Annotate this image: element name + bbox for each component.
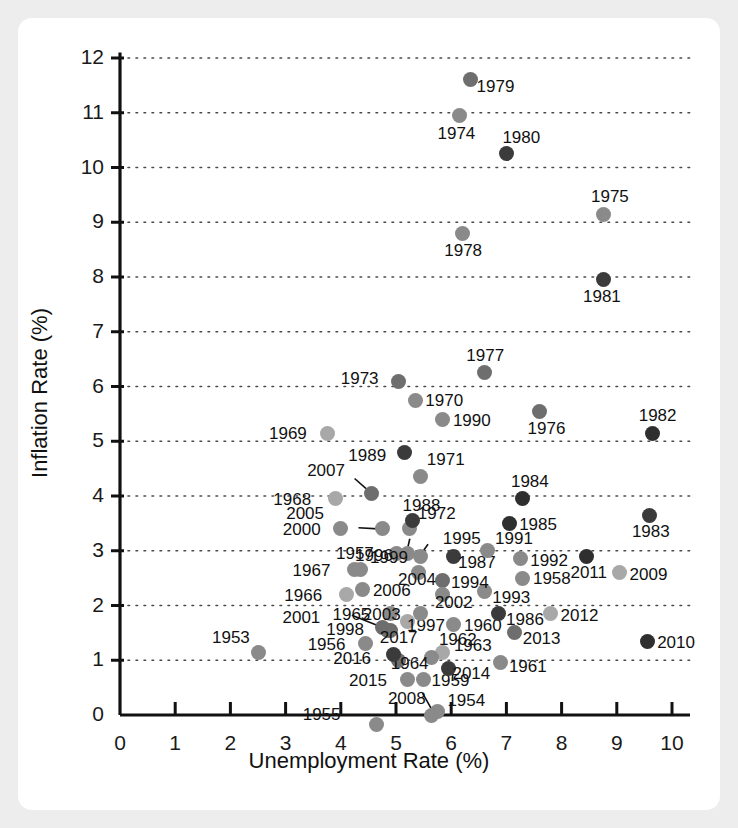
data-point-1983[interactable] [642, 508, 657, 523]
data-point-1999[interactable] [353, 562, 368, 577]
y-tick-label-7: 7 [48, 319, 104, 343]
point-label-1974: 1974 [437, 124, 475, 144]
point-label-1984: 1984 [511, 472, 549, 492]
point-label-1975: 1975 [591, 187, 629, 207]
point-label-2008: 2008 [388, 689, 426, 709]
data-point-1968[interactable] [328, 491, 343, 506]
y-tick-label-3: 3 [48, 538, 104, 562]
data-point-2011[interactable] [579, 549, 594, 564]
data-point-2016[interactable] [386, 647, 401, 662]
point-label-1979: 1979 [477, 77, 515, 97]
point-label-1989: 1989 [348, 446, 386, 466]
x-axis-title: Unemployment Rate (%) [0, 748, 738, 774]
data-point-1991[interactable] [480, 543, 495, 558]
point-label-1982: 1982 [639, 406, 677, 426]
y-tick-label-12: 12 [48, 45, 104, 69]
data-point-1975[interactable] [596, 207, 611, 222]
y-tick-label-8: 8 [48, 264, 104, 288]
data-point-1978[interactable] [455, 226, 470, 241]
y-tick-label-0: 0 [48, 702, 104, 726]
point-label-2001: 2001 [282, 608, 320, 628]
point-label-1954: 1954 [447, 691, 485, 711]
point-label-1988: 1988 [403, 496, 441, 516]
point-label-1961: 1961 [509, 657, 547, 677]
data-point-1953[interactable] [251, 645, 266, 660]
point-label-1969: 1969 [269, 424, 307, 444]
plot-svg-layer [0, 0, 738, 828]
point-label-1978: 1978 [444, 241, 482, 261]
y-tick-label-2: 2 [48, 593, 104, 617]
point-label-1999: 1999 [370, 548, 408, 568]
data-point-1973[interactable] [391, 374, 406, 389]
point-label-1983: 1983 [632, 522, 670, 542]
point-label-2012: 2012 [561, 606, 599, 626]
point-label-2006: 2006 [373, 581, 411, 601]
point-label-2003: 2003 [363, 605, 401, 625]
data-point-1986[interactable] [491, 606, 506, 621]
data-point-2015[interactable] [400, 672, 415, 687]
data-point-1969[interactable] [320, 426, 335, 441]
point-label-2014: 2014 [452, 664, 490, 684]
point-label-1980: 1980 [502, 128, 540, 148]
point-label-2002: 2002 [435, 593, 473, 613]
y-tick-label-4: 4 [48, 483, 104, 507]
point-label-1955: 1955 [303, 705, 341, 725]
point-label-1991: 1991 [495, 529, 533, 549]
point-label-1953: 1953 [212, 628, 250, 648]
point-label-1976: 1976 [528, 419, 566, 439]
point-label-1994: 1994 [451, 573, 489, 593]
point-label-2015: 2015 [349, 671, 387, 691]
y-tick-label-9: 9 [48, 209, 104, 233]
data-point-1970[interactable] [408, 393, 423, 408]
point-label-2016: 2016 [333, 649, 371, 669]
y-tick-label-11: 11 [48, 100, 104, 124]
point-label-2005: 2005 [286, 504, 324, 524]
data-point-2008[interactable] [424, 708, 439, 723]
data-point-2007[interactable] [364, 486, 379, 501]
data-point-2006[interactable] [355, 582, 370, 597]
y-tick-label-6: 6 [48, 374, 104, 398]
data-point-1982[interactable] [645, 426, 660, 441]
point-label-1967: 1967 [293, 561, 331, 581]
y-tick-label-1: 1 [48, 647, 104, 671]
data-point-1995[interactable] [413, 549, 428, 564]
point-label-1990: 1990 [453, 411, 491, 431]
point-label-2013: 2013 [523, 629, 561, 649]
scatter-plot: 0123456789101112 012345678910 1953195419… [0, 0, 738, 828]
y-tick-label-10: 10 [48, 155, 104, 179]
point-label-1993: 1993 [492, 588, 530, 608]
data-point-1976[interactable] [532, 404, 547, 419]
point-label-1992: 1992 [530, 551, 568, 571]
point-label-1970: 1970 [425, 391, 463, 411]
point-label-1971: 1971 [427, 450, 465, 470]
point-label-1995: 1995 [443, 529, 481, 549]
data-point-1989[interactable] [397, 445, 412, 460]
point-label-2017: 2017 [380, 628, 418, 648]
data-point-1981[interactable] [596, 272, 611, 287]
y-axis-title: Inflation Rate (%) [27, 193, 53, 593]
point-label-1963: 1963 [454, 636, 492, 656]
data-point-2010[interactable] [640, 634, 655, 649]
point-label-1958: 1958 [533, 569, 571, 589]
data-point-2005[interactable] [375, 521, 390, 536]
data-point-1974[interactable] [452, 108, 467, 123]
point-label-1973: 1973 [341, 369, 379, 389]
point-label-2009: 2009 [630, 565, 668, 585]
point-label-1998: 1998 [326, 620, 364, 640]
y-tick-label-5: 5 [48, 428, 104, 452]
point-label-2010: 2010 [657, 633, 695, 653]
point-label-1981: 1981 [583, 287, 621, 307]
data-point-1966[interactable] [339, 587, 354, 602]
point-label-1977: 1977 [466, 346, 504, 366]
point-label-2011: 2011 [570, 563, 607, 583]
point-label-2007: 2007 [307, 461, 345, 481]
point-label-1966: 1966 [284, 586, 322, 606]
